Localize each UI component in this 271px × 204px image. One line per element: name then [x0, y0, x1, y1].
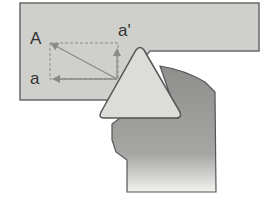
label-resultant-A: A	[30, 29, 42, 48]
label-vertical-a-prime: a'	[118, 21, 131, 40]
label-horizontal-a: a	[30, 69, 40, 88]
cutting-force-diagram: A a' a	[0, 0, 271, 204]
